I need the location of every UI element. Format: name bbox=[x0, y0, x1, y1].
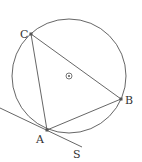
point-a bbox=[46, 129, 49, 132]
label-c: C bbox=[20, 28, 28, 41]
label-b: B bbox=[125, 94, 133, 107]
segment-ca bbox=[31, 34, 47, 130]
point-c bbox=[30, 33, 33, 36]
label-s: S bbox=[73, 148, 81, 161]
center-mark bbox=[66, 73, 72, 79]
label-a: A bbox=[35, 133, 45, 146]
geometry-diagram: C B A S bbox=[0, 0, 142, 162]
segment-cb bbox=[31, 34, 121, 99]
point-b bbox=[120, 98, 123, 101]
segment-ab bbox=[47, 99, 121, 130]
